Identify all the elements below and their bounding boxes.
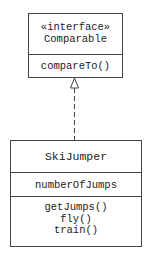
operation: getJumps() xyxy=(11,202,141,214)
operation: train() xyxy=(11,225,141,237)
hollow-triangle-arrowhead-icon xyxy=(71,78,79,88)
interface-header: «interface» Comparable xyxy=(29,14,122,54)
class-name: SkiJumper xyxy=(11,151,141,163)
interface-operations: compareTo() xyxy=(29,54,122,77)
class-operations: getJumps() fly() train() xyxy=(11,196,141,237)
interface-stereotype: «interface» xyxy=(29,21,122,33)
class-attributes: numberOfJumps xyxy=(11,172,141,196)
interface-name: Comparable xyxy=(29,33,122,45)
class-skijumper[interactable]: SkiJumper numberOfJumps getJumps() fly()… xyxy=(10,140,142,247)
attribute: numberOfJumps xyxy=(11,179,141,191)
class-header: SkiJumper xyxy=(11,141,141,172)
interface-comparable[interactable]: «interface» Comparable compareTo() xyxy=(28,13,123,78)
operation: compareTo() xyxy=(29,60,122,72)
